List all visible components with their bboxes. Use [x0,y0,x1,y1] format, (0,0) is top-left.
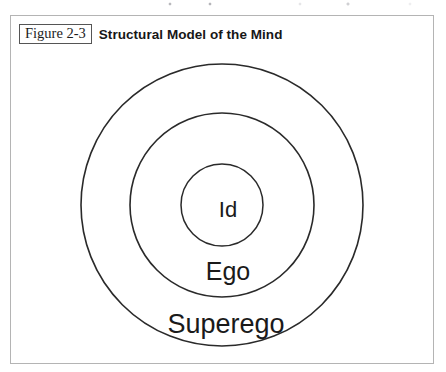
figure-frame: Id Ego Superego Figure 2-3 Structural Mo… [10,15,434,364]
figure-title: Structural Model of the Mind [99,27,283,42]
superego-label: Superego [167,309,284,339]
scan-artifact-band [0,0,446,12]
figure-number-box: Figure 2-3 [19,24,92,44]
figure-caption: Figure 2-3 Structural Model of the Mind [19,24,282,44]
structural-model-diagram: Id Ego Superego [11,16,435,365]
ego-label: Ego [206,257,250,285]
id-label: Id [219,197,237,222]
